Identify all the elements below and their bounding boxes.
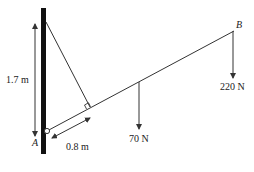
statics-diagram: 1.7 m A 0.8 m 70 N B 220 N	[0, 0, 254, 172]
force-end-label: 220 N	[220, 81, 245, 92]
cable	[46, 22, 90, 107]
point-a-label: A	[31, 137, 39, 148]
point-b-label: B	[236, 19, 242, 30]
force-mid-label: 70 N	[129, 133, 149, 144]
distance-dimension-arrow	[52, 118, 90, 138]
hinge-a-icon	[44, 128, 49, 133]
distance-label: 0.8 m	[66, 141, 89, 152]
rod	[47, 31, 234, 131]
height-label: 1.7 m	[6, 74, 29, 85]
